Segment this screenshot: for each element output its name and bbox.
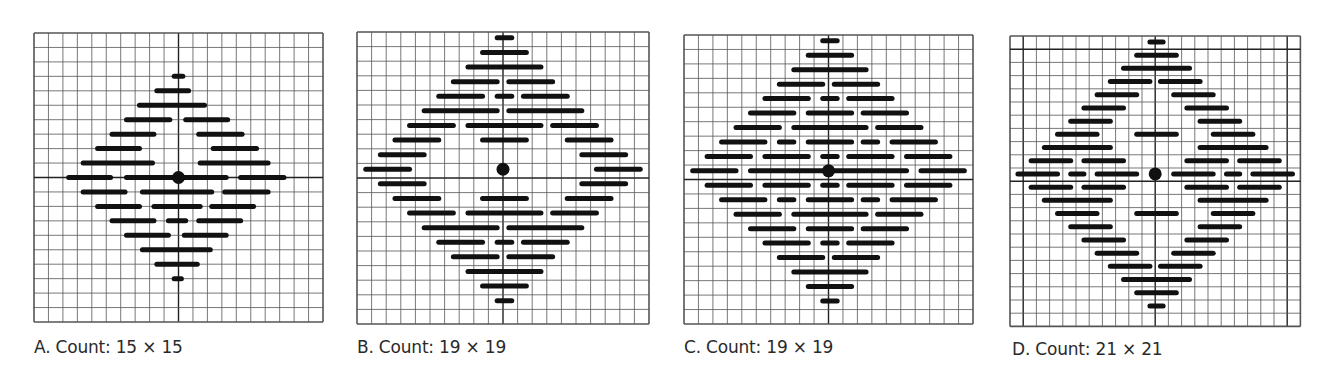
caption-b: B. Count: 19 × 19 (357, 337, 506, 357)
center-dot-icon (172, 171, 185, 184)
stitch-chart-a (34, 33, 323, 322)
center-dot-icon (822, 164, 835, 177)
grid-chart-c (684, 35, 973, 324)
grid-chart-a (34, 33, 323, 322)
stitch-chart-d (1010, 36, 1300, 326)
caption-a: A. Count: 15 × 15 (34, 337, 183, 357)
center-dot-icon (497, 163, 510, 176)
caption-d: D. Count: 21 × 21 (1012, 339, 1162, 359)
stitch-chart-c (684, 35, 973, 324)
grid-chart-d (1010, 36, 1300, 326)
caption-c: C. Count: 19 × 19 (684, 337, 833, 357)
center-dot-icon (1149, 167, 1162, 180)
stitch-chart-b (357, 32, 649, 324)
grid-chart-b (357, 32, 649, 324)
